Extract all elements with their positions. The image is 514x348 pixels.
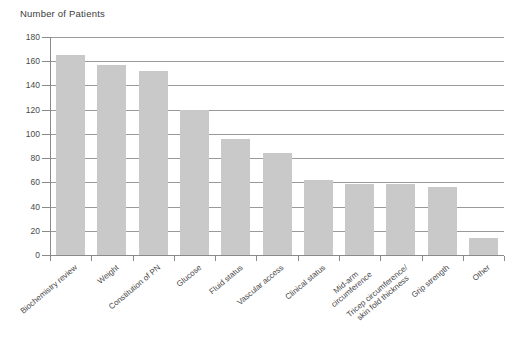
x-axis-tick: [133, 256, 134, 261]
gridline: [50, 37, 504, 38]
gridline: [50, 255, 504, 256]
y-axis-tick-label: 60: [10, 177, 40, 187]
x-axis-tick: [422, 256, 423, 261]
y-axis-tick-label: 40: [10, 202, 40, 212]
bar: [221, 139, 250, 255]
y-axis-tick-label: 160: [10, 56, 40, 66]
x-axis-tick: [463, 256, 464, 261]
x-axis-category-label: Fluid status: [207, 263, 244, 296]
bar: [345, 184, 374, 255]
x-axis-category-label: Clinical status: [284, 263, 328, 302]
x-axis-tick: [298, 256, 299, 261]
bar: [428, 187, 457, 255]
bar: [469, 238, 498, 255]
gridline: [50, 61, 504, 62]
y-axis-tick-label: 140: [10, 80, 40, 90]
bar: [386, 184, 415, 255]
x-axis-tick: [380, 256, 381, 261]
bar: [180, 110, 209, 255]
y-axis-tick-label: 100: [10, 129, 40, 139]
y-axis-tick: [42, 255, 50, 256]
bar: [97, 65, 126, 255]
y-axis-tick: [42, 231, 50, 232]
x-axis-tick: [215, 256, 216, 261]
x-axis-tick: [174, 256, 175, 261]
x-axis-category-label: Biochemistry review: [19, 263, 79, 316]
y-axis-tick: [42, 134, 50, 135]
x-axis-tick: [504, 256, 505, 261]
x-axis-tick: [256, 256, 257, 261]
y-axis-tick-label: 0: [10, 250, 40, 260]
bar: [139, 71, 168, 255]
y-axis-tick: [42, 85, 50, 86]
x-axis-tick: [91, 256, 92, 261]
x-axis-category-label: Grip strength: [410, 263, 451, 300]
y-axis-line: [50, 37, 51, 256]
y-axis-tick: [42, 158, 50, 159]
x-axis-category-label: Glucose: [175, 263, 203, 289]
y-axis-tick-label: 20: [10, 226, 40, 236]
bar: [304, 180, 333, 255]
x-axis-category-label: Weight: [96, 263, 121, 286]
y-axis-tick: [42, 207, 50, 208]
x-axis-tick: [50, 256, 51, 261]
y-axis-tick-label: 120: [10, 105, 40, 115]
bar: [56, 55, 85, 255]
x-axis-category-label: Other: [471, 263, 492, 283]
bar-chart-plot: 020406080100120140160180Biochemistry rev…: [0, 0, 514, 348]
y-axis-tick: [42, 182, 50, 183]
chart-canvas: Number of Patients 020406080100120140160…: [0, 0, 514, 348]
x-axis-tick: [339, 256, 340, 261]
y-axis-tick: [42, 110, 50, 111]
y-axis-tick: [42, 61, 50, 62]
y-axis-tick-label: 80: [10, 153, 40, 163]
bar: [263, 153, 292, 255]
y-axis-tick: [42, 37, 50, 38]
y-axis-tick-label: 180: [10, 32, 40, 42]
